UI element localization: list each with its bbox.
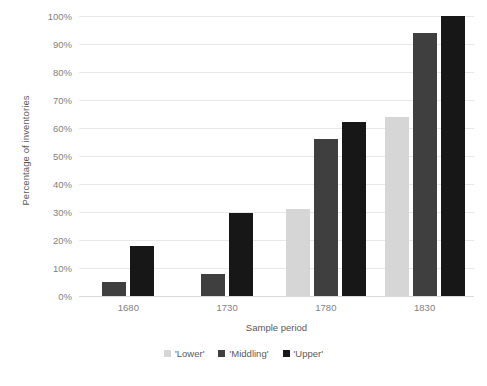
axis-baseline: [79, 296, 474, 297]
bar-groups: [79, 16, 474, 296]
bar[interactable]: [413, 33, 437, 296]
bar[interactable]: [229, 213, 253, 296]
bar[interactable]: [201, 274, 225, 296]
legend-item-label: 'Middling': [229, 348, 268, 359]
bar-group-bars: [178, 16, 277, 296]
y-axis-tick-label: 50%: [53, 151, 72, 162]
x-axis-title: Sample period: [79, 322, 474, 333]
bar-group-bars: [375, 16, 474, 296]
bar[interactable]: [102, 282, 126, 296]
x-axis-tick-label: 1830: [375, 302, 474, 320]
x-axis-tick-label: 1780: [277, 302, 376, 320]
legend-item[interactable]: 'Middling': [218, 348, 268, 359]
bar-group-bars: [79, 16, 178, 296]
y-axis-tick-label: 60%: [53, 123, 72, 134]
bar[interactable]: [385, 117, 409, 296]
y-axis-tick-label: 30%: [53, 207, 72, 218]
y-axis-tick-label: 20%: [53, 235, 72, 246]
y-axis-tick-label: 90%: [53, 39, 72, 50]
bar-group: [277, 16, 376, 296]
bar[interactable]: [342, 122, 366, 296]
legend: 'Lower''Middling''Upper': [0, 348, 487, 359]
y-axis-tick-labels: 0%10%20%30%40%50%60%70%80%90%100%: [36, 16, 72, 296]
x-axis-tick-label: 1730: [178, 302, 277, 320]
legend-swatch-icon: [218, 350, 225, 357]
y-axis-tick-label: 0%: [58, 291, 72, 302]
legend-swatch-icon: [283, 350, 290, 357]
legend-item-label: 'Lower': [175, 348, 205, 359]
y-axis-title-text: Percentage of inventories: [20, 95, 31, 205]
y-axis-tick-label: 80%: [53, 67, 72, 78]
y-axis-tick-label: 10%: [53, 263, 72, 274]
bar-chart: Percentage of inventories 0%10%20%30%40%…: [0, 0, 487, 386]
y-axis-tick-label: 40%: [53, 179, 72, 190]
bar[interactable]: [314, 139, 338, 296]
legend-item[interactable]: 'Lower': [164, 348, 205, 359]
legend-swatch-icon: [164, 350, 171, 357]
x-axis-tick-label: 1680: [79, 302, 178, 320]
y-axis-tick-label: 100%: [48, 11, 72, 22]
bar-group-bars: [277, 16, 376, 296]
bar-group: [79, 16, 178, 296]
x-axis-tick-labels: 1680173017801830: [79, 302, 474, 320]
bar-group: [375, 16, 474, 296]
y-axis-tick-label: 70%: [53, 95, 72, 106]
bar[interactable]: [286, 209, 310, 296]
legend-item-label: 'Upper': [294, 348, 324, 359]
plot-area: [79, 16, 474, 296]
bar[interactable]: [130, 246, 154, 296]
bar-group: [178, 16, 277, 296]
bar[interactable]: [441, 16, 465, 296]
legend-item[interactable]: 'Upper': [283, 348, 324, 359]
y-axis-title: Percentage of inventories: [14, 0, 36, 300]
